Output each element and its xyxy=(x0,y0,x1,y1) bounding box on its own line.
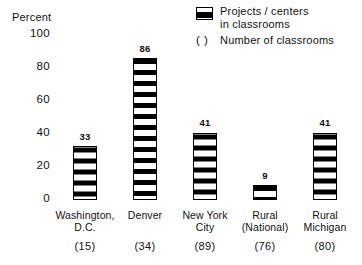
legend-entry-classrooms: ( ) Number of classrooms xyxy=(196,34,362,50)
legend: Projects / centers in classrooms ( ) Num… xyxy=(196,5,362,50)
legend-entry-projects: Projects / centers in classrooms xyxy=(196,5,362,33)
bar-rural-national xyxy=(253,185,277,200)
bar-chart: Percent 100 80 60 40 20 0 33 86 41 9 41 xyxy=(0,0,362,265)
bar-fill-pattern xyxy=(254,186,276,199)
x-count-rural-michigan: (80) xyxy=(289,240,361,252)
striped-box-icon xyxy=(196,7,213,20)
bar-fill-pattern xyxy=(134,59,156,199)
parentheses-icon: ( ) xyxy=(196,34,216,46)
bar-group-washington-dc: 33 xyxy=(73,0,97,200)
bar-value-label: 86 xyxy=(133,43,157,54)
bar-value-label: 9 xyxy=(253,170,277,181)
legend-label-classrooms: Number of classrooms xyxy=(220,34,334,47)
bar-fill-pattern xyxy=(194,134,216,200)
bar-new-york-city xyxy=(193,133,217,201)
bar-denver xyxy=(133,58,157,200)
legend-label-projects: Projects / centers in classrooms xyxy=(220,5,309,30)
bar-value-label: 41 xyxy=(193,117,217,128)
bar-value-label: 33 xyxy=(73,131,97,142)
bar-fill-pattern xyxy=(314,134,336,200)
bar-washington-dc xyxy=(73,146,97,201)
bar-fill-pattern xyxy=(74,147,96,200)
x-label-rural-michigan: Rural Michigan xyxy=(289,210,361,233)
bar-value-label: 41 xyxy=(313,117,337,128)
bar-rural-michigan xyxy=(313,133,337,201)
bar-group-denver: 86 xyxy=(133,0,157,200)
